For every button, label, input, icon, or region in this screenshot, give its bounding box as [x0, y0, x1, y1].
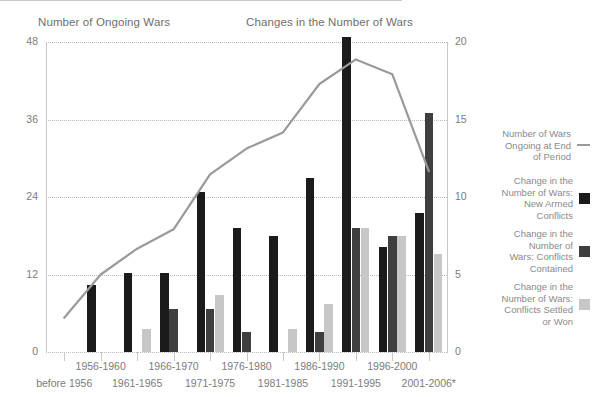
- x-axis-label: 1971-1975: [170, 377, 250, 389]
- legend-item: Number of Wars Ongoing at End of Period: [462, 128, 590, 163]
- x-axis-label: 1976-1980: [207, 360, 287, 372]
- x-axis-label: 1986-1990: [279, 360, 359, 372]
- x-axis-label: 1991-1995: [316, 377, 396, 389]
- y-axis-left-tick-label: 48: [8, 35, 38, 47]
- legend-label: Number of Wars Ongoing at End of Period: [502, 128, 577, 163]
- y-axis-right: [447, 42, 448, 353]
- x-axis-label: before 1956: [24, 377, 104, 389]
- legend-color-swatch: [579, 193, 590, 204]
- chart-title-right: Changes in the Number of Wars: [246, 16, 413, 28]
- x-axis-label: 1961-1965: [97, 377, 177, 389]
- legend-color-swatch: [579, 246, 590, 257]
- x-axis-label: 2001-2006*: [389, 377, 469, 389]
- y-axis-left-tick-label: 12: [8, 268, 38, 280]
- x-axis-label: 1966-1970: [134, 360, 214, 372]
- legend-line-swatch: [577, 144, 590, 146]
- legend-label: Change in the Number of Wars: Conflicts …: [509, 228, 579, 274]
- x-axis-label: 1956-1960: [61, 360, 141, 372]
- legend-item: Change in the Number of Wars: New Armed …: [462, 175, 590, 221]
- y-axis-left-tick-label: 0: [8, 345, 38, 357]
- line-series-ongoing-wars: [46, 42, 447, 353]
- legend-label: Change in the Number of Wars: New Armed …: [502, 175, 579, 221]
- legend-color-swatch: [579, 299, 590, 310]
- x-axis: [0, 0, 402, 1]
- y-axis-left-tick-label: 36: [8, 113, 38, 125]
- legend-label: Change in the Number of Wars: Conflicts …: [502, 281, 579, 327]
- legend-item: Change in the Number of Wars: Conflicts …: [462, 281, 590, 327]
- y-axis-left-tick-label: 24: [8, 190, 38, 202]
- chart-title-left: Number of Ongoing Wars: [38, 16, 170, 28]
- x-axis-label: 1981-1985: [243, 377, 323, 389]
- legend-item: Change in the Number of Wars: Conflicts …: [462, 228, 590, 274]
- y-axis-right-tick-label: 20: [455, 35, 485, 47]
- y-axis-right-tick-label: 0: [455, 345, 485, 357]
- y-axis-right-tick-label: 15: [455, 113, 485, 125]
- x-axis-label: 1996-2000: [352, 360, 432, 372]
- chart-root: Number of Ongoing Wars Changes in the Nu…: [0, 0, 592, 397]
